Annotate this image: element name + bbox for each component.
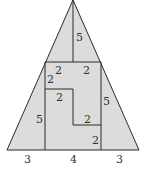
geometry-diagram: 5 2 2 2 2 5 5 2 2 3 4 3 bbox=[0, 0, 145, 172]
label-top-left-horizontal: 2 bbox=[55, 64, 62, 77]
label-left-vertical: 5 bbox=[36, 113, 43, 126]
label-apex-vertical: 5 bbox=[76, 31, 83, 44]
label-top-right-horizontal: 2 bbox=[83, 64, 90, 77]
label-step-vertical: 2 bbox=[92, 134, 99, 147]
label-inner-horizontal: 2 bbox=[56, 91, 63, 104]
label-base-left: 3 bbox=[24, 153, 31, 166]
label-right-vertical: 5 bbox=[103, 95, 110, 108]
label-step-horizontal: 2 bbox=[84, 113, 91, 126]
label-base-middle: 4 bbox=[70, 153, 77, 166]
label-base-right: 3 bbox=[116, 153, 123, 166]
label-left-upper-vertical: 2 bbox=[47, 73, 54, 86]
